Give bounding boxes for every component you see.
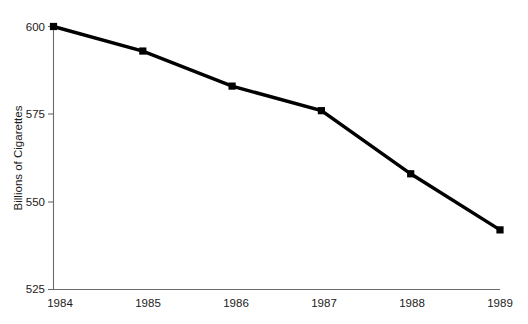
y-tick-label-550: 550 [26,196,45,208]
x-tick-label-1987: 1987 [311,297,337,309]
axis-frame-path [54,27,501,290]
chart-canvas: 600 575 550 525 1984 1985 1986 1987 1988… [0,0,528,324]
y-tick-label-525: 525 [26,283,45,295]
x-tick-label-1988: 1988 [399,297,425,309]
y-axis-title: Billions of Cigarettes [12,105,24,210]
data-point-1988 [407,170,414,177]
data-point-1986 [229,83,236,90]
x-tick-label-1989: 1989 [487,297,513,309]
x-tick-labels: 1984 1985 1986 1987 1988 1989 [47,297,513,309]
data-point-1984 [50,23,57,30]
data-point-1987 [318,107,325,114]
y-tick-labels: 600 575 550 525 [26,21,45,295]
data-point-1989 [496,226,503,233]
data-series-markers [50,23,504,234]
axis-lines [54,27,501,290]
data-point-1985 [139,47,146,54]
y-tick-label-575: 575 [26,108,45,120]
x-tick-label-1984: 1984 [47,297,73,309]
y-tick-marks [48,27,54,290]
data-series-line [54,27,501,230]
x-tick-label-1985: 1985 [135,297,161,309]
line-chart-figure: 600 575 550 525 1984 1985 1986 1987 1988… [0,0,528,324]
y-tick-label-600: 600 [26,21,45,33]
x-tick-label-1986: 1986 [223,297,249,309]
